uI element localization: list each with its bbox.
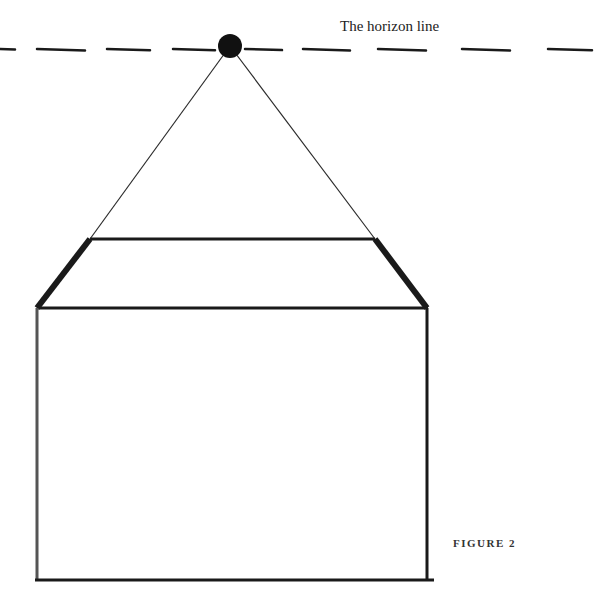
horizon-dash <box>548 49 592 50</box>
horizon-dash <box>107 49 150 50</box>
converging-lines <box>90 46 375 239</box>
horizon-line-label: The horizon line <box>340 18 439 35</box>
right-receding-edge <box>375 239 427 308</box>
horizon-dash <box>462 49 510 50</box>
horizon-dash <box>173 49 215 50</box>
vanishing-point <box>218 34 242 58</box>
figure-caption: FIGURE 2 <box>453 537 516 549</box>
horizon-dash <box>245 49 282 50</box>
horizon-dash <box>378 49 426 50</box>
horizon-line <box>0 49 592 50</box>
horizon-dash <box>303 49 350 50</box>
front-box <box>35 308 434 580</box>
horizon-dash <box>37 49 85 50</box>
top-face <box>37 239 427 308</box>
left-receding-edge <box>37 239 90 308</box>
perspective-diagram <box>0 0 613 605</box>
